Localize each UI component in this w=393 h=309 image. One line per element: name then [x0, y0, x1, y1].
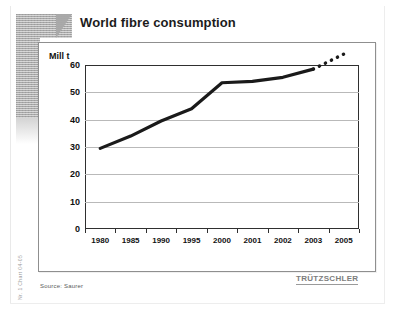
side-margin-code: Nr. 1 Chart 04-05 — [17, 290, 23, 300]
decorative-band-fade — [16, 118, 40, 144]
page-title: World fibre consumption — [80, 15, 236, 30]
plot-area: 0102030405060 19801985199019952000200120… — [85, 65, 359, 229]
data-series-line — [100, 69, 313, 148]
brand-logo: TRÜTZSCHLER — [296, 274, 358, 285]
page-edge-bottom — [10, 303, 385, 304]
chart-card: Mill t 0102030405060 1980198519901995200… — [38, 42, 376, 272]
source-note: Source: Saurer — [40, 283, 83, 289]
page-edge-left — [10, 6, 11, 303]
series-lines — [79, 47, 379, 247]
slide-canvas: World fibre consumption Mill t 010203040… — [0, 0, 393, 309]
page-edge-right — [384, 6, 385, 303]
decorative-corner-chamfer-icon — [56, 14, 72, 38]
data-series-line — [313, 54, 343, 69]
y-axis-unit-label: Mill t — [49, 51, 70, 61]
decorative-corner-band-left — [16, 14, 40, 118]
